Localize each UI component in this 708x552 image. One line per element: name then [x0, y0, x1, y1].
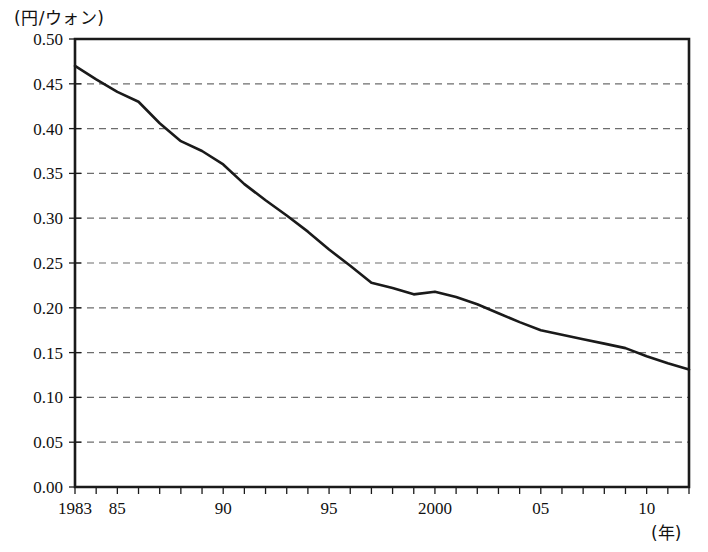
y-axis-tick-label: 0.50: [33, 30, 63, 49]
x-axis-tick-label: 85: [109, 499, 126, 518]
y-axis-tick-label: 0.40: [33, 120, 63, 139]
x-axis-tick-label: 2000: [418, 499, 452, 518]
x-axis-tick-labels: 198385909520000510: [58, 499, 655, 518]
y-axis-tick-label: 0.20: [33, 299, 63, 318]
y-axis-tick-label: 0.10: [33, 388, 63, 407]
x-axis-tick-label: 95: [321, 499, 338, 518]
y-axis-tick-label: 0.30: [33, 209, 63, 228]
x-axis-unit-label: (年): [651, 519, 681, 544]
y-axis-tick-label: 0.05: [33, 433, 63, 452]
y-axis-tick-label: 0.00: [33, 478, 63, 497]
x-axis-tick-label: 05: [532, 499, 549, 518]
y-axis-tick-label: 0.15: [33, 344, 63, 363]
y-axis-tick-labels: 0.000.050.100.150.200.250.300.350.400.45…: [33, 30, 63, 497]
x-axis-tick-label: 10: [638, 499, 655, 518]
gridlines: [75, 84, 689, 442]
chart-container: (円/ウォン) 0.000.050.100.150.200.250.300.35…: [0, 0, 708, 552]
x-axis-tick-label: 90: [215, 499, 232, 518]
line-chart-plot: 0.000.050.100.150.200.250.300.350.400.45…: [0, 0, 708, 552]
y-axis-tick-label: 0.25: [33, 254, 63, 273]
y-axis-tick-label: 0.45: [33, 75, 63, 94]
y-axis-tick-label: 0.35: [33, 164, 63, 183]
x-axis-tick-label: 1983: [58, 499, 92, 518]
